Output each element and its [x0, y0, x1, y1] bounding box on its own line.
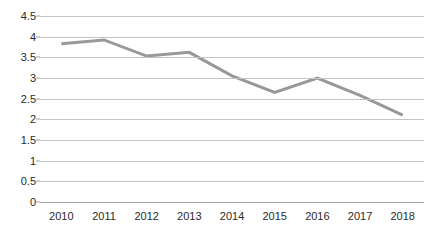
y-tick-label-3: 3: [0, 73, 36, 84]
x-tick-label-2017: 2017: [339, 206, 382, 226]
y-tick-label-3.5: 3.5: [0, 52, 36, 63]
y-tick-label-1: 1: [0, 155, 36, 166]
x-tick-label-2012: 2012: [125, 206, 168, 226]
y-tick-label-4: 4: [0, 31, 36, 42]
plot-area: [40, 16, 424, 202]
data-series-line: [40, 16, 424, 202]
x-tick-label-2013: 2013: [168, 206, 211, 226]
gridline-3.5: [40, 57, 424, 58]
gridline-3: [40, 78, 424, 79]
gridline-0: [40, 202, 424, 203]
x-tick-label-2018: 2018: [381, 206, 424, 226]
gridline-4: [40, 37, 424, 38]
y-tick-label-1.5: 1.5: [0, 135, 36, 146]
x-axis: 201020112012201320142015201620172018: [40, 206, 424, 226]
x-tick-label-2016: 2016: [296, 206, 339, 226]
y-tick-label-4.5: 4.5: [0, 11, 36, 22]
x-tick-label-2011: 2011: [83, 206, 126, 226]
chart-title: [0, 0, 429, 3]
y-tick-label-2.5: 2.5: [0, 93, 36, 104]
y-axis: 4.543.532.521.510.50: [0, 16, 36, 202]
line-chart: 4.543.532.521.510.50 2010201120122013201…: [0, 0, 429, 241]
gridline-1.5: [40, 140, 424, 141]
gridline-2: [40, 119, 424, 120]
x-tick-label-2014: 2014: [211, 206, 254, 226]
y-tick-label-0.5: 0.5: [0, 176, 36, 187]
x-tick-label-2015: 2015: [253, 206, 296, 226]
gridline-4.5: [40, 16, 424, 17]
gridline-2.5: [40, 99, 424, 100]
x-tick-label-2010: 2010: [40, 206, 83, 226]
gridline-1: [40, 161, 424, 162]
y-tick-label-0: 0: [0, 197, 36, 208]
gridline-0.5: [40, 181, 424, 182]
y-tick-label-2: 2: [0, 114, 36, 125]
